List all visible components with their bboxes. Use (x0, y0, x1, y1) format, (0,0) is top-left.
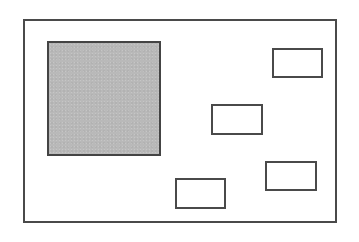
box-middle (211, 104, 263, 135)
box-lower-right (265, 161, 317, 191)
shaded-block (47, 41, 161, 156)
box-bottom-center (175, 178, 226, 209)
box-top-right (272, 48, 323, 78)
